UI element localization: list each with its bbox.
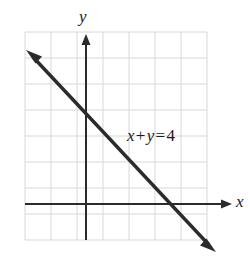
- graph-figure: y x x+y=4: [0, 0, 252, 264]
- line-arrowhead-upper-left: [26, 50, 42, 64]
- equation-right-variable: y: [147, 126, 155, 145]
- line-arrowhead-lower-right: [200, 239, 216, 253]
- equation-left-variable: x: [127, 126, 135, 145]
- x-axis-arrowhead: [221, 200, 232, 209]
- equation-operator: +: [135, 126, 147, 145]
- equation-equals-sign: =: [155, 126, 167, 145]
- coordinate-plane-svg: [0, 0, 252, 264]
- equation-annotation: x+y=4: [127, 126, 175, 146]
- grid-lines: [25, 32, 207, 240]
- line-graph: [26, 50, 216, 252]
- y-axis: [82, 34, 91, 240]
- y-axis-arrowhead: [82, 34, 91, 45]
- y-axis-label: y: [79, 8, 87, 25]
- equation-constant: 4: [167, 126, 176, 145]
- x-axis-label: x: [236, 193, 244, 210]
